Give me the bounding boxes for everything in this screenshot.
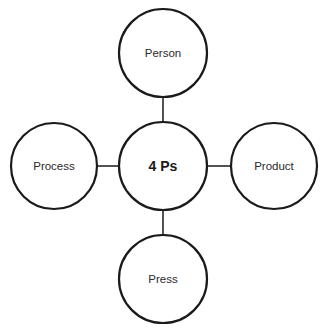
node-press-label: Press	[119, 235, 207, 323]
node-person-label: Person	[119, 9, 207, 97]
node-product-label: Product	[231, 123, 317, 209]
node-process-label: Process	[11, 123, 97, 209]
node-center-label: 4 Ps	[119, 122, 207, 210]
